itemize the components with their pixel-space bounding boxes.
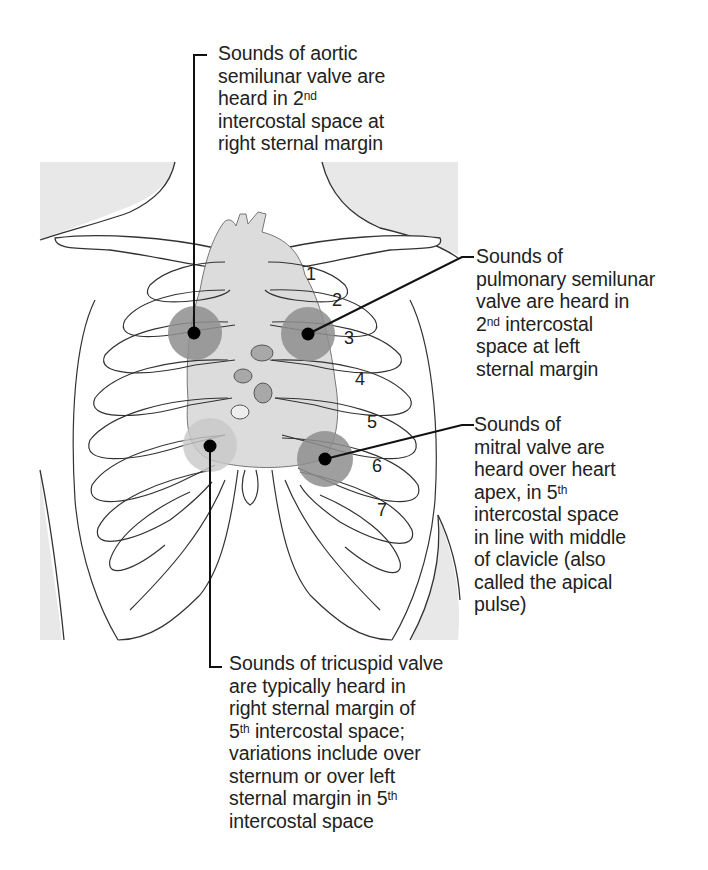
pulmonary-line: pulmonary semilunar xyxy=(476,268,655,291)
tricuspid-line: 5th intercostal space; xyxy=(229,720,443,743)
aortic-marker xyxy=(188,327,201,340)
tricuspid-line: sternal margin in 5th xyxy=(229,787,443,810)
aortic-line: Sounds of aortic xyxy=(218,42,385,65)
mitral-line: called the apical xyxy=(474,571,626,594)
mitral-leader xyxy=(325,425,474,459)
rib-number-2: 2 xyxy=(332,290,342,310)
rib-number-6: 6 xyxy=(372,456,382,476)
mitral-line: Sounds of xyxy=(474,413,626,436)
tricuspid-line: are typically heard in xyxy=(229,675,443,698)
tricuspid-valve-label: Sounds of tricuspid valve are typically … xyxy=(229,652,443,832)
mitral-line: in line with middle xyxy=(474,526,626,549)
mitral-line: apex, in 5th xyxy=(474,481,626,504)
rib-number-3: 3 xyxy=(344,328,354,348)
pulmonary-line: space at left xyxy=(476,335,655,358)
pulmonary-line: valve are heard in xyxy=(476,290,655,313)
mitral-line: intercostal space xyxy=(474,503,626,526)
aortic-line: semilunar valve are xyxy=(218,65,385,88)
rib-number-1: 1 xyxy=(306,264,316,284)
mitral-line: mitral valve are xyxy=(474,436,626,459)
rib-number-4: 4 xyxy=(355,369,365,389)
rib-number-7: 7 xyxy=(377,500,387,520)
pulmonary-line: 2nd intercostal xyxy=(476,313,655,336)
aortic-line: intercostal space at xyxy=(218,110,385,133)
mitral-line: of clavicle (also xyxy=(474,548,626,571)
mitral-valve-label: Sounds of mitral valve are heard over he… xyxy=(474,413,626,616)
aortic-line: heard in 2nd xyxy=(218,87,385,110)
tricuspid-line: sternum or over left xyxy=(229,765,443,788)
tricuspid-line: variations include over xyxy=(229,742,443,765)
pulmonary-line: sternal margin xyxy=(476,358,655,381)
pulmonary-valve-label: Sounds of pulmonary semilunar valve are … xyxy=(476,245,655,380)
aortic-valve-label: Sounds of aortic semilunar valve are hea… xyxy=(218,42,385,155)
tricuspid-marker xyxy=(204,440,217,453)
tricuspid-line: right sternal margin of xyxy=(229,697,443,720)
tricuspid-line: Sounds of tricuspid valve xyxy=(229,652,443,675)
tricuspid-line: intercostal space xyxy=(229,810,443,833)
rib-number-5: 5 xyxy=(367,412,377,432)
mitral-marker xyxy=(319,453,332,466)
pulmonary-marker xyxy=(302,328,315,341)
mitral-line: heard over heart xyxy=(474,458,626,481)
pulmonary-line: Sounds of xyxy=(476,245,655,268)
aortic-line: right sternal margin xyxy=(218,132,385,155)
mitral-line: pulse) xyxy=(474,593,626,616)
